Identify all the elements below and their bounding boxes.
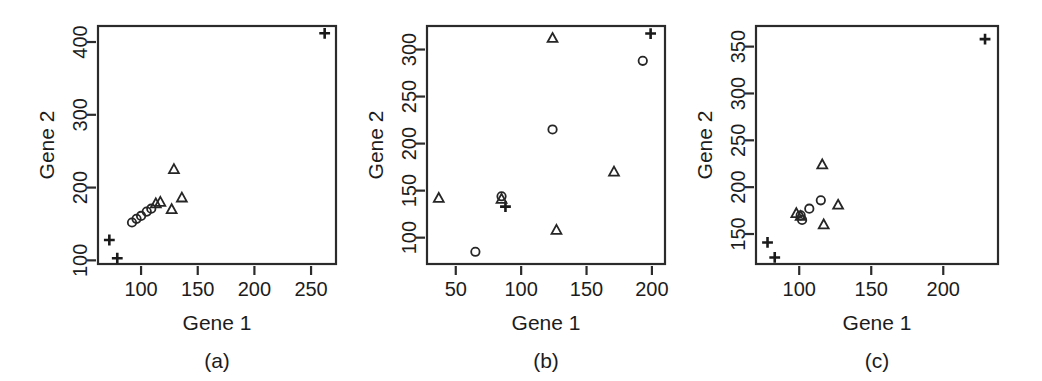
- x-axis: 100150200250: [124, 266, 327, 300]
- scatter-panel-a: 100150200250100200300400Gene 1Gene 2(a): [0, 0, 350, 381]
- x-axis-title: Gene 1: [843, 311, 912, 334]
- y-tick-label: 300: [398, 33, 420, 66]
- scatter-panel-c: 100150200150200250300350Gene 1Gene 2(c): [690, 0, 1042, 381]
- figure-container: 100150200250100200300400Gene 1Gene 2(a)5…: [0, 0, 1042, 381]
- x-tick-label: 150: [570, 278, 603, 300]
- x-axis: 100150200: [783, 266, 960, 300]
- plot-frame: [427, 26, 665, 264]
- data-point-plus: [319, 28, 330, 39]
- x-axis-title: Gene 1: [183, 311, 252, 334]
- y-axis-title: Gene 2: [693, 111, 716, 180]
- data-points: [762, 34, 990, 263]
- x-tick-label: 50: [445, 278, 467, 300]
- x-axis: 50100150200: [445, 266, 669, 300]
- data-points: [104, 28, 330, 264]
- data-point-plus: [762, 237, 773, 248]
- x-tick-label: 200: [635, 278, 668, 300]
- y-tick-label: 250: [727, 124, 749, 157]
- plot-frame: [98, 26, 336, 264]
- data-point-triangle: [434, 193, 444, 202]
- data-point-plus: [645, 28, 656, 39]
- y-axis-title: Gene 2: [35, 111, 58, 180]
- y-tick-label: 300: [69, 98, 91, 131]
- y-tick-label: 150: [398, 174, 420, 207]
- y-tick-label: 400: [69, 25, 91, 58]
- data-point-triangle: [167, 204, 177, 213]
- data-point-triangle: [169, 164, 179, 173]
- y-tick-label: 100: [398, 221, 420, 254]
- scatter-plot-a: 100150200250100200300400Gene 1Gene 2(a): [0, 0, 350, 381]
- data-point-plus: [104, 235, 115, 246]
- y-tick-label: 250: [398, 80, 420, 113]
- data-point-triangle: [833, 200, 843, 209]
- data-point-triangle: [819, 219, 829, 228]
- data-point-plus: [980, 34, 991, 45]
- data-point-circle: [471, 248, 479, 256]
- y-tick-label: 200: [398, 127, 420, 160]
- y-axis: 100200300400: [69, 25, 96, 277]
- scatter-plot-b: 50100150200100150200250300Gene 1Gene 2(b…: [350, 0, 690, 381]
- data-point-triangle: [817, 159, 827, 168]
- y-tick-label: 200: [727, 170, 749, 203]
- panel-caption-a: (a): [204, 349, 230, 372]
- y-axis: 100150200250300: [398, 33, 425, 255]
- y-tick-label: 200: [69, 171, 91, 204]
- plot-frame: [756, 26, 998, 264]
- x-tick-label: 200: [238, 278, 271, 300]
- data-point-plus: [112, 253, 123, 264]
- x-tick-label: 100: [504, 278, 537, 300]
- x-tick-label: 250: [294, 278, 327, 300]
- x-tick-label: 150: [181, 278, 214, 300]
- y-tick-label: 100: [69, 244, 91, 277]
- data-points: [434, 28, 656, 256]
- data-point-circle: [817, 196, 825, 204]
- data-point-circle: [639, 57, 647, 65]
- y-axis-title: Gene 2: [364, 111, 387, 180]
- x-tick-label: 100: [783, 278, 816, 300]
- y-axis: 150200250300350: [727, 30, 754, 251]
- data-point-triangle: [552, 225, 562, 234]
- y-tick-label: 350: [727, 30, 749, 63]
- data-point-circle: [805, 205, 813, 213]
- y-tick-label: 300: [727, 77, 749, 110]
- scatter-panel-b: 50100150200100150200250300Gene 1Gene 2(b…: [350, 0, 690, 381]
- scatter-plot-c: 100150200150200250300350Gene 1Gene 2(c): [690, 0, 1042, 381]
- data-point-triangle: [155, 197, 165, 206]
- x-tick-label: 100: [124, 278, 157, 300]
- data-point-triangle: [548, 33, 558, 42]
- data-point-circle: [548, 125, 556, 133]
- panel-caption-c: (c): [865, 349, 890, 372]
- data-point-plus: [769, 252, 780, 263]
- data-point-triangle: [177, 193, 187, 202]
- data-point-triangle: [609, 167, 619, 176]
- panel-caption-b: (b): [533, 349, 559, 372]
- y-tick-label: 150: [727, 217, 749, 250]
- x-axis-title: Gene 1: [512, 311, 581, 334]
- x-tick-label: 200: [927, 278, 960, 300]
- x-tick-label: 150: [855, 278, 888, 300]
